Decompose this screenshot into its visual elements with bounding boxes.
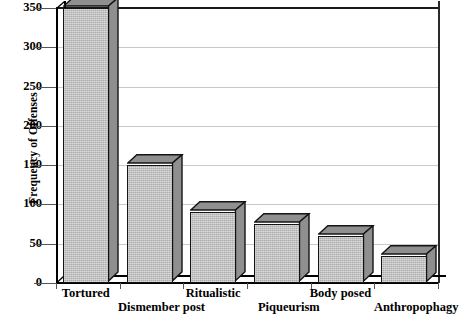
x-axis-label: Anthropophagy — [346, 301, 465, 314]
x-axis-label: Body posed — [271, 287, 411, 300]
bar[interactable] — [318, 236, 364, 283]
bar-front-face — [63, 8, 109, 283]
bar[interactable] — [190, 212, 236, 283]
bar-chart: Frequency of Offenses 050100150200250300… — [0, 0, 465, 327]
y-axis-tick-mark — [34, 283, 56, 284]
x-axis-label: Ritualistic — [143, 287, 283, 300]
x-axis-label: Piqueurism — [219, 301, 359, 314]
bar-front-face — [318, 236, 364, 283]
plot-area — [56, 8, 438, 283]
x-axis-label: Dismember post — [92, 301, 232, 314]
x-axis-tick — [438, 283, 439, 289]
bar-front-face — [254, 224, 300, 283]
bar[interactable] — [127, 165, 173, 283]
y-axis-tick-mark — [34, 8, 56, 9]
bar[interactable] — [254, 224, 300, 283]
bar[interactable] — [381, 256, 427, 284]
y-axis-tick-labels: 050100150200250300350 — [0, 0, 42, 327]
right-wall-line — [438, 1, 440, 283]
bar-front-face — [381, 256, 427, 284]
bar[interactable] — [63, 8, 109, 283]
bar-front-face — [127, 165, 173, 283]
y-axis-line — [56, 8, 58, 283]
bar-front-face — [190, 212, 236, 283]
x-axis-label: Tortured — [16, 287, 156, 300]
